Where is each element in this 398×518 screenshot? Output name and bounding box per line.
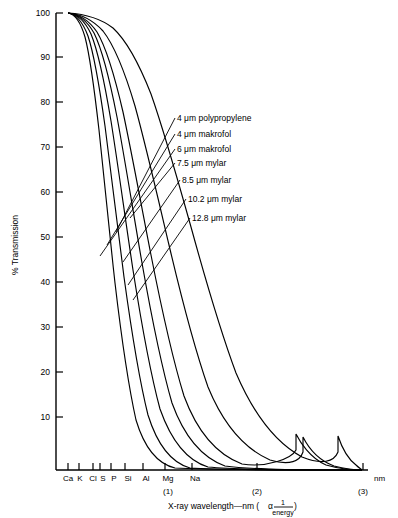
x-axis-element-labels: Ca K Cl S P Si Al Mg Na — [63, 474, 201, 483]
x-label-s: S — [100, 474, 105, 483]
x-label-k: K — [77, 474, 83, 483]
y-label-20: 20 — [41, 367, 51, 377]
x-label-p: P — [111, 474, 116, 483]
x-axis-title-group: X-ray wavelength—nm (α 1/energy) X-ray w… — [168, 499, 303, 517]
x-label-na: Na — [190, 474, 201, 483]
x-label-si: Si — [124, 474, 131, 483]
leader-line-4-um-polypropylene — [116, 118, 175, 232]
curve-4-um-makrofol — [68, 13, 362, 470]
x-axis-title-close: ) — [294, 501, 297, 511]
x-label-mg: Mg — [162, 474, 173, 483]
y-axis-ticks — [56, 13, 63, 417]
x-note-3: (3) — [358, 487, 368, 496]
series-label-10-2-um-mylar: 10.2 μm mylar — [188, 194, 242, 204]
series-label-4-um-polypropylene: 4 μm polypropylene — [177, 113, 252, 123]
x-axis-unit-label: nm — [374, 474, 385, 483]
x-axis-fraction-numerator: 1 — [281, 499, 285, 506]
x-label-al: Al — [142, 474, 149, 483]
y-label-30: 30 — [41, 322, 51, 332]
y-label-80: 80 — [41, 97, 51, 107]
y-label-10: 10 — [41, 412, 51, 422]
x-label-ca: Ca — [63, 474, 74, 483]
y-axis-tick-labels: 100 90 80 70 60 50 40 30 20 10 — [36, 8, 50, 422]
y-label-70: 70 — [41, 142, 51, 152]
y-label-90: 90 — [41, 52, 51, 62]
series-label-6-um-makrofol: 6 μm makrofol — [177, 144, 231, 154]
x-axis-numeric-notes: (1) (2) (3) — [163, 487, 368, 496]
axes-group — [56, 13, 368, 470]
y-label-100: 100 — [36, 8, 50, 18]
series-label-12-8-um-mylar: 12.8 μm mylar — [192, 213, 246, 223]
series-label-7-5-um-mylar: 7.5 μm mylar — [177, 158, 226, 168]
x-axis-fraction-denominator: energy — [272, 509, 294, 517]
x-axis-title-text: X-ray wavelength—nm ( — [168, 501, 259, 511]
x-label-cl: Cl — [89, 474, 97, 483]
y-axis-title: % Transmission — [10, 215, 20, 275]
series-labels-group: 4 μm polypropylene 4 μm makrofol 6 μm ma… — [177, 113, 252, 223]
y-label-50: 50 — [41, 232, 51, 242]
transmission-chart: 100 90 80 70 60 50 40 30 20 10 % Transmi… — [0, 0, 398, 518]
series-label-4-um-makrofol: 4 μm makrofol — [177, 129, 231, 139]
curves-group — [68, 13, 362, 470]
x-note-2: (2) — [252, 487, 262, 496]
y-label-40: 40 — [41, 277, 51, 287]
x-note-1: (1) — [163, 487, 173, 496]
chart-svg: 100 90 80 70 60 50 40 30 20 10 % Transmi… — [0, 0, 398, 518]
series-label-8-5-um-mylar: 8.5 μm mylar — [182, 175, 231, 185]
y-label-60: 60 — [41, 187, 51, 197]
